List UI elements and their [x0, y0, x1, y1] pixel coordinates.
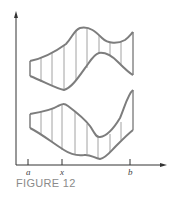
lower-top-curve	[30, 90, 133, 137]
tick-label-x: x	[60, 167, 64, 177]
upper-bottom-curve	[30, 53, 133, 90]
upper-region	[30, 28, 133, 90]
tick-label-a: a	[26, 167, 31, 177]
axes	[14, 11, 167, 167]
lower-bottom-curve	[30, 128, 133, 159]
upper-hatch-lines	[41, 29, 133, 89]
y-axis-arrow-icon	[14, 11, 18, 18]
figure-caption: FIGURE 12	[16, 177, 76, 189]
lower-hatch-lines	[41, 90, 133, 159]
tick-label-b: b	[128, 167, 133, 177]
upper-top-curve	[30, 28, 133, 61]
lower-region	[30, 90, 133, 159]
x-axis-arrow-icon	[160, 163, 167, 167]
